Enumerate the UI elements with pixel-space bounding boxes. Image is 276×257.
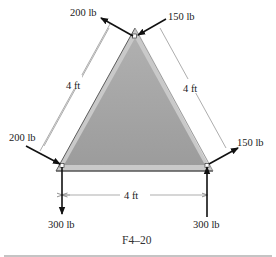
force-top-right-label: 150 lb: [168, 11, 195, 22]
force-bottom-right-label: 300 lb: [193, 219, 220, 230]
arrow-200lb-left: [26, 146, 60, 164]
force-diagram: 4 ft 4 ft 4 ft 200 lb 150 lb 200 lb 150 …: [0, 0, 276, 257]
force-left-label: 200 lb: [9, 132, 36, 143]
arrow-150lb-right: [209, 148, 238, 164]
force-bottom-left-label: 300 lb: [48, 219, 75, 230]
pin-top: [133, 34, 137, 38]
pin-bottom-left: [60, 164, 64, 168]
force-right-label: 150 lb: [237, 137, 264, 148]
arrow-150lb-top: [138, 19, 166, 35]
pin-bottom-right: [205, 164, 209, 168]
figure-caption: F4–20: [122, 234, 152, 246]
dimension-right-label: 4 ft: [183, 83, 197, 94]
force-top-left-label: 200 lb: [70, 7, 97, 18]
dimension-bottom-label: 4 ft: [124, 190, 138, 201]
dimension-left-label: 4 ft: [66, 80, 80, 91]
triangular-plate: [56, 28, 213, 171]
